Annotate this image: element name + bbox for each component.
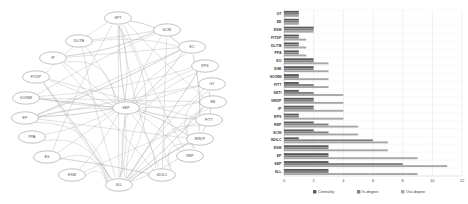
network-node-label: EC: [189, 45, 194, 49]
chart-bar[interactable]: [284, 68, 314, 70]
chart-bar[interactable]: [284, 42, 299, 44]
chart-legend-label: Centrality: [318, 190, 334, 194]
network-node-label: ESM: [68, 173, 76, 177]
chart-bar[interactable]: [284, 106, 314, 108]
chart-legend-item[interactable]: Out-degree: [401, 190, 425, 194]
chart-category-label: EP: [277, 154, 282, 158]
network-node[interactable]: GT: [199, 78, 226, 90]
chart-bar[interactable]: [284, 60, 314, 62]
chart-bar[interactable]: [284, 37, 299, 39]
network-node-label: SO/NM: [20, 96, 32, 100]
chart-bar[interactable]: [284, 153, 329, 155]
chart-bar[interactable]: [284, 47, 306, 49]
chart-legend-item[interactable]: In-degree: [357, 190, 378, 194]
chart-bar[interactable]: [284, 163, 403, 165]
network-node[interactable]: DL/TB: [66, 35, 93, 47]
network-node[interactable]: PPA: [19, 131, 46, 143]
chart-bar[interactable]: [284, 149, 388, 151]
chart-legend-label: Out-degree: [406, 190, 425, 194]
chart-bar[interactable]: [284, 70, 329, 72]
chart-bar[interactable]: [284, 29, 314, 31]
chart-bar[interactable]: [284, 45, 299, 47]
chart-bar[interactable]: [284, 66, 314, 68]
chart-bar[interactable]: [284, 90, 299, 92]
chart-bar[interactable]: [284, 118, 343, 120]
network-node[interactable]: ESM: [59, 169, 86, 181]
chart-bar[interactable]: [284, 62, 329, 64]
chart-bar[interactable]: [284, 145, 329, 147]
chart-bar[interactable]: [284, 31, 314, 33]
chart-bar[interactable]: [284, 74, 299, 76]
chart-bar[interactable]: [284, 171, 329, 173]
chart-bar[interactable]: [284, 108, 314, 110]
chart-bar[interactable]: [284, 58, 314, 60]
chart-bar[interactable]: [284, 15, 299, 17]
chart-bar[interactable]: [284, 126, 358, 128]
chart-bar[interactable]: [284, 110, 343, 112]
chart-bar[interactable]: [284, 122, 314, 124]
network-node[interactable]: SEP: [113, 102, 140, 114]
chart-bar[interactable]: [284, 27, 314, 29]
chart-bar[interactable]: [284, 98, 314, 100]
chart-bar[interactable]: [284, 82, 299, 84]
chart-bar[interactable]: [284, 137, 299, 139]
network-node-label: NRDP: [195, 137, 206, 141]
chart-bar[interactable]: [284, 147, 329, 149]
network-node[interactable]: SLL: [106, 179, 133, 191]
network-node[interactable]: EP: [12, 112, 39, 124]
chart-bar[interactable]: [284, 11, 299, 13]
network-node[interactable]: IP: [40, 52, 67, 64]
chart-bar[interactable]: [284, 157, 418, 159]
chart-bar[interactable]: [284, 21, 299, 23]
chart-bar[interactable]: [284, 100, 314, 102]
degree-bar-chart-panel: GTEEESMFITDPDL/TBPPAEOESESO/NMFITTSETINR…: [238, 0, 468, 204]
chart-bar[interactable]: [284, 35, 299, 37]
network-node[interactable]: NRDP: [187, 133, 214, 145]
chart-bar[interactable]: [284, 141, 388, 143]
network-node[interactable]: SDILC: [149, 169, 176, 181]
network-node[interactable]: FITDP: [23, 71, 50, 83]
network-node[interactable]: FITT: [196, 114, 223, 126]
chart-bar[interactable]: [284, 39, 306, 41]
chart-bar[interactable]: [284, 86, 329, 88]
chart-bar[interactable]: [284, 132, 329, 134]
network-node[interactable]: ES: [34, 151, 61, 163]
chart-category-label: SDILC: [271, 138, 282, 142]
chart-bar[interactable]: [284, 134, 358, 136]
network-node-label: RPS: [201, 64, 209, 68]
chart-bar[interactable]: [284, 114, 299, 116]
network-node[interactable]: EC: [179, 41, 206, 53]
chart-bar[interactable]: [284, 161, 329, 163]
chart-bar[interactable]: [284, 129, 314, 131]
chart-bar[interactable]: [284, 19, 299, 21]
network-node[interactable]: SO/NM: [13, 92, 40, 104]
chart-bar[interactable]: [284, 76, 299, 78]
chart-bar[interactable]: [284, 155, 329, 157]
chart-bar[interactable]: [284, 52, 299, 54]
network-node[interactable]: EE: [200, 96, 227, 108]
chart-bar[interactable]: [284, 165, 447, 167]
network-node[interactable]: RPS: [192, 60, 219, 72]
chart-bar[interactable]: [284, 124, 329, 126]
chart-category-label: RPS: [274, 115, 282, 119]
chart-legend-swatch: [357, 190, 360, 193]
chart-bar[interactable]: [284, 169, 329, 171]
chart-bar[interactable]: [284, 78, 329, 80]
chart-bar[interactable]: [284, 23, 299, 25]
chart-bar[interactable]: [284, 50, 299, 52]
chart-bar[interactable]: [284, 55, 306, 57]
chart-bar[interactable]: [284, 139, 373, 141]
network-node[interactable]: REP: [177, 150, 204, 162]
chart-bar[interactable]: [284, 94, 343, 96]
chart-bar[interactable]: [284, 13, 299, 15]
network-edge: [136, 113, 179, 152]
network-node[interactable]: SCNI: [154, 24, 181, 36]
network-node[interactable]: SPT: [105, 12, 132, 24]
chart-bar[interactable]: [284, 173, 418, 175]
chart-bar[interactable]: [284, 116, 299, 118]
chart-legend-item[interactable]: Centrality: [313, 190, 334, 194]
network-node-label: ES: [45, 155, 50, 159]
chart-bar[interactable]: [284, 92, 314, 94]
chart-bar[interactable]: [284, 84, 314, 86]
chart-bar[interactable]: [284, 102, 343, 104]
